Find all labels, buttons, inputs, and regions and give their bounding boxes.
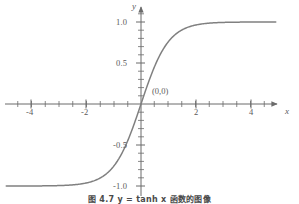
figure-caption: 图 4.7 y = tanh x 函数的图像 xyxy=(0,193,299,204)
plot-canvas xyxy=(0,0,299,204)
tanh-function-figure: 1.0 0.5 -0.5 -1.0 -4 -2 2 4 y x (0,0) 图 … xyxy=(0,0,299,204)
